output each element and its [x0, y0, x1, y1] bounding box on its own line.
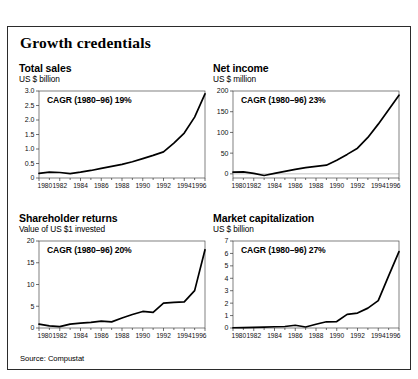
y-axis-label: 50 [221, 150, 229, 157]
y-axis-label: 1 [225, 312, 229, 319]
x-axis-label: 1996 [386, 182, 401, 189]
x-axis-label: 1996 [192, 332, 207, 339]
x-axis-label: 1990 [135, 182, 150, 189]
x-axis-label: 1986 [94, 182, 109, 189]
x-axis-label: 1982 [246, 182, 261, 189]
x-axis-label: 1994 [371, 332, 386, 339]
x-axis-label: 1992 [350, 182, 365, 189]
x-axis-label: 1992 [156, 332, 171, 339]
x-axis-label: 1984 [73, 182, 88, 189]
x-axis-label: 1986 [94, 332, 109, 339]
x-axis-label: 1982 [246, 332, 261, 339]
chart-shareholder-returns: Shareholder returns Value of US $1 inves… [19, 212, 209, 342]
y-axis-label: 7 [225, 237, 229, 244]
data-series-line [39, 94, 205, 174]
x-axis-label: 1980 [38, 332, 53, 339]
data-series-line [233, 95, 399, 175]
chart-title: Total sales [19, 62, 71, 74]
data-series-line [233, 252, 399, 328]
x-axis-label: 1988 [115, 332, 130, 339]
y-axis-label: 3 [225, 287, 229, 294]
x-axis-label: 1994 [371, 182, 386, 189]
x-axis-label: 1984 [267, 182, 282, 189]
y-axis-label: 0 [225, 324, 229, 331]
chart-subtitle: Value of US $1 invested [19, 224, 105, 234]
y-axis-label: 0 [31, 174, 35, 181]
x-axis-label: 1990 [135, 332, 150, 339]
y-axis-label: 4 [225, 275, 229, 282]
chart-title: Shareholder returns [19, 212, 117, 224]
cagr-annotation: CAGR (1980–96) 19% [47, 95, 132, 105]
cagr-annotation: CAGR (1980–96) 27% [241, 245, 326, 255]
figure-panel: Growth credentials Total sales US $ bill… [7, 26, 411, 370]
x-axis-label: 1994 [177, 332, 192, 339]
y-axis-label: 2.0 [25, 116, 35, 123]
cagr-annotation: CAGR (1980–96) 20% [47, 245, 132, 255]
chart-title: Market capitalization [213, 212, 314, 224]
y-axis-label: 5 [31, 303, 35, 310]
y-axis-label: 1.5 [25, 131, 35, 138]
chart-subtitle: US $ billion [19, 74, 60, 84]
y-axis-label: 0 [225, 170, 229, 177]
chart-subtitle: US $ million [213, 74, 256, 84]
x-axis-label: 1980 [38, 182, 53, 189]
figure-title: Growth credentials [20, 34, 151, 52]
x-axis-label: 1982 [52, 182, 67, 189]
x-axis-label: 1984 [267, 332, 282, 339]
y-axis-label: 3.0 [25, 87, 35, 94]
chart-market-capitalization: Market capitalization US $ billion 01234… [213, 212, 403, 342]
cagr-annotation: CAGR (1980–96) 23% [241, 95, 326, 105]
x-axis-label: 1980 [232, 332, 247, 339]
x-axis-label: 1980 [232, 182, 247, 189]
x-axis-label: 1996 [192, 182, 207, 189]
y-axis-label: 15 [27, 259, 35, 266]
x-axis-label: 1990 [329, 332, 344, 339]
x-axis-label: 1990 [329, 182, 344, 189]
x-axis-label: 1988 [309, 182, 324, 189]
chart-subtitle: US $ billion [213, 224, 254, 234]
y-axis-label: 1.0 [25, 145, 35, 152]
x-axis-label: 1988 [309, 332, 324, 339]
chart-title: Net income [213, 62, 269, 74]
y-axis-label: 20 [27, 237, 35, 244]
y-axis-label: 2.5 [25, 102, 35, 109]
x-axis-label: 1986 [288, 332, 303, 339]
x-axis-label: 1988 [115, 182, 130, 189]
y-axis-label: 0 [31, 324, 35, 331]
x-axis-label: 1984 [73, 332, 88, 339]
x-axis-label: 1982 [52, 332, 67, 339]
y-axis-label: 200 [217, 87, 229, 94]
chart-net-income: Net income US $ million 0501001502001980… [213, 62, 403, 192]
y-axis-label: 5 [225, 262, 229, 269]
y-axis-label: 0.5 [25, 160, 35, 167]
data-series-line [39, 250, 205, 327]
y-axis-label: 150 [217, 108, 229, 115]
y-axis-label: 100 [217, 129, 229, 136]
x-axis-label: 1994 [177, 182, 192, 189]
source-note: Source: Compustat [20, 354, 84, 363]
y-axis-label: 6 [225, 250, 229, 257]
y-axis-label: 10 [27, 281, 35, 288]
x-axis-label: 1996 [386, 332, 401, 339]
x-axis-label: 1986 [288, 182, 303, 189]
x-axis-label: 1992 [156, 182, 171, 189]
chart-total-sales: Total sales US $ billion 00.51.01.52.02.… [19, 62, 209, 192]
x-axis-label: 1992 [350, 332, 365, 339]
y-axis-label: 2 [225, 300, 229, 307]
